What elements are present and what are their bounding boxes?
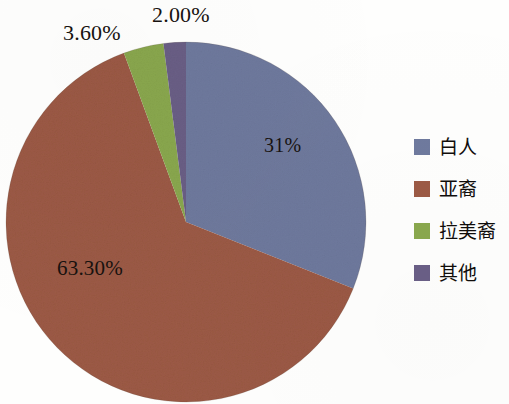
legend-swatch-asian-icon (414, 181, 430, 197)
legend-item-white: 白人 (414, 126, 506, 168)
pie-chart-plot-area: 3.60% 2.00% 31% 63.30% (0, 0, 400, 404)
legend-label-asian: 亚裔 (439, 180, 477, 199)
legend-label-hispanic: 拉美裔 (439, 222, 496, 241)
legend-swatch-other-icon (414, 265, 430, 281)
pie-chart-svg (0, 0, 400, 404)
legend-item-other: 其他 (414, 252, 506, 294)
chart-legend: 白人 亚裔 拉美裔 其他 (414, 126, 506, 294)
legend-swatch-hispanic-icon (414, 223, 430, 239)
legend-label-other: 其他 (439, 264, 477, 283)
legend-item-hispanic: 拉美裔 (414, 210, 506, 252)
slice-label-white: 31% (264, 134, 301, 157)
slice-label-asian: 63.30% (57, 256, 123, 281)
pie-slice-group (6, 42, 366, 402)
legend-label-white: 白人 (439, 138, 477, 157)
slice-label-other: 2.00% (152, 2, 210, 28)
pie-chart-page: 3.60% 2.00% 31% 63.30% 白人 亚裔 拉美裔 其他 (0, 0, 509, 404)
legend-item-asian: 亚裔 (414, 168, 506, 210)
legend-swatch-white-icon (414, 139, 430, 155)
slice-label-hispanic: 3.60% (63, 20, 121, 46)
